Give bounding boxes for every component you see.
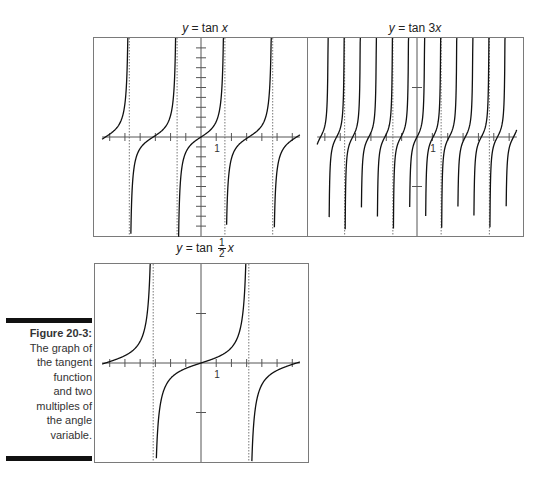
svg-text:1: 1 [214, 369, 220, 380]
svg-text:1: 1 [214, 143, 220, 154]
fraction-one-half: 12 [218, 238, 226, 259]
figure-caption: Figure 20-3: The graph of the tangent fu… [6, 326, 92, 442]
frac-den: 2 [218, 249, 226, 259]
caption-line: the tangent [37, 356, 92, 368]
title-var: x [435, 21, 441, 35]
title-eq: = tan [188, 21, 222, 35]
tan3x-graph: 1 [308, 38, 525, 238]
title-var: x [228, 241, 234, 255]
chart-title-tanhalf: y = tan 12x [150, 238, 260, 259]
caption-line: the angle [47, 414, 92, 426]
chart-title-tanx: y = tan x [150, 21, 260, 35]
plot-tan3x: 1 [307, 37, 524, 237]
title-var: x [222, 21, 228, 35]
caption-line: function [53, 371, 92, 383]
tanx-graph: 1 [94, 38, 309, 238]
caption-top-rule [6, 318, 92, 323]
caption-line: The graph of [30, 342, 92, 354]
chart-title-tan3x: y = tan 3x [360, 21, 470, 35]
caption-line: and two [53, 385, 92, 397]
svg-text:1: 1 [430, 143, 436, 154]
figure-label: Figure 20-3: [6, 326, 92, 341]
caption-bottom-rule [6, 456, 92, 461]
caption-line: variable. [50, 429, 92, 441]
title-eq: = tan [182, 241, 216, 255]
plot-tanx: 1 [93, 37, 308, 237]
title-eq: = tan 3 [395, 21, 435, 35]
caption-line: multiples of [36, 400, 92, 412]
tanhalf-graph: 1 [95, 264, 310, 464]
plot-tanhalf: 1 [94, 263, 309, 463]
